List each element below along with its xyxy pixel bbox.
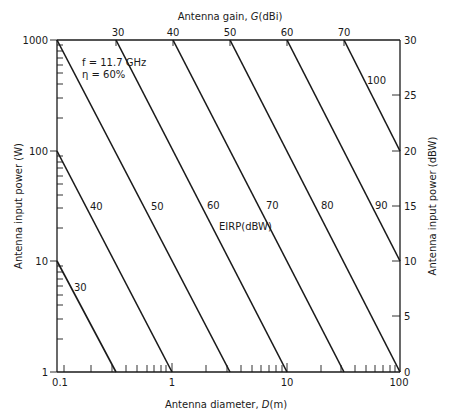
bottom-axis-title: Antenna diameter, D(m): [165, 399, 287, 410]
frequency-annotation: f = 11.7 GHz: [82, 57, 146, 68]
eirp-line-60: [116, 40, 287, 372]
left-axis-title: Antenna input power (W): [13, 143, 24, 269]
y-tick-100: 100: [29, 146, 48, 157]
dbw-tick-15: 15: [404, 201, 417, 212]
dbw-tick-5: 5: [404, 311, 410, 322]
dbw-tick-0: 0: [404, 367, 410, 378]
y-tick-10: 10: [35, 256, 48, 267]
eirp-line-90: [287, 40, 400, 261]
gain-tick-30: 30: [112, 27, 125, 38]
gain-tick-70: 70: [338, 27, 351, 38]
gain-tick-50: 50: [224, 27, 237, 38]
dbw-tick-10: 10: [404, 256, 417, 267]
line-label-60: 60: [207, 200, 220, 211]
right-axis-title: Antenna input power (dBW): [427, 137, 438, 276]
line-label-30: 30: [74, 282, 87, 293]
eirp-line-100: [344, 40, 400, 151]
eirp-line-40: [57, 151, 172, 372]
line-label-50: 50: [151, 201, 164, 212]
eirp-line-30: [57, 261, 116, 372]
efficiency-annotation: η = 60%: [82, 69, 125, 80]
x-tick-1: 1: [169, 377, 175, 388]
eirp-annotation: EIRP(dBW): [219, 221, 272, 232]
y-tick-1000: 1000: [23, 35, 48, 46]
chart: 1000 100 10 1 0.1 1 10 100 30 40 50 60 7…: [0, 0, 452, 417]
dbw-tick-30: 30: [404, 35, 417, 46]
y-tick-1: 1: [42, 367, 48, 378]
x-tick-10: 10: [281, 377, 294, 388]
line-label-80: 80: [321, 200, 334, 211]
line-label-40: 40: [90, 201, 103, 212]
eirp-line-70: [173, 40, 344, 372]
gain-tick-40: 40: [167, 27, 180, 38]
dbw-tick-20: 20: [404, 146, 417, 157]
line-label-100: 100: [367, 75, 386, 86]
right-ticks: [392, 95, 400, 316]
dbw-tick-25: 25: [404, 90, 417, 101]
gain-tick-60: 60: [281, 27, 294, 38]
line-label-90: 90: [375, 200, 388, 211]
x-tick-100: 100: [389, 377, 408, 388]
top-axis-title: Antenna gain, G(dBi): [178, 11, 283, 22]
line-label-70: 70: [266, 200, 279, 211]
x-tick-0.1: 0.1: [52, 377, 68, 388]
eirp-lines: [57, 40, 400, 372]
eirp-line-50: [57, 40, 230, 372]
